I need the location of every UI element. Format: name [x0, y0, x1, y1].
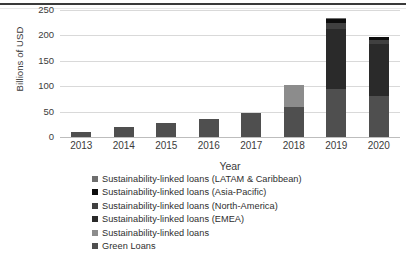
y-tick-250: 250 — [18, 5, 54, 15]
bar-segment[interactable] — [369, 96, 389, 137]
bar-segment[interactable] — [71, 132, 91, 137]
chart-page: Billions of USD 250200150100500 20132014… — [0, 0, 406, 259]
bar-group-2014[interactable] — [114, 127, 134, 137]
legend-item[interactable]: Sustainability-linked loans — [92, 226, 392, 240]
bar-segment[interactable] — [326, 89, 346, 137]
x-tick-2018: 2018 — [273, 140, 315, 151]
page-top-rule-faint — [0, 8, 406, 9]
y-tick-0: 0 — [18, 132, 54, 142]
bar-group-2016[interactable] — [199, 119, 219, 137]
legend-item[interactable]: Green Loans — [92, 240, 392, 254]
page-top-rule — [0, 3, 406, 5]
y-tick-200: 200 — [18, 30, 54, 40]
bar-group-2017[interactable] — [241, 113, 261, 137]
legend-item[interactable]: Sustainability-linked loans (LATAM & Car… — [92, 172, 392, 186]
bar-segment[interactable] — [369, 44, 389, 96]
bar-segment[interactable] — [326, 29, 346, 88]
y-tick-150: 150 — [18, 56, 54, 66]
axis-baseline — [60, 137, 400, 138]
bar-group-2013[interactable] — [71, 132, 91, 137]
bar-segment[interactable] — [156, 123, 176, 137]
legend-swatch-icon — [92, 176, 98, 182]
bar-segment[interactable] — [199, 119, 219, 137]
x-axis-title: Year — [60, 160, 400, 172]
x-tick-2013: 2013 — [60, 140, 102, 151]
bars-container — [60, 10, 400, 137]
bar-group-2019[interactable] — [326, 18, 346, 137]
plot-area: Billions of USD 250200150100500 20132014… — [0, 10, 406, 160]
bar-group-2020[interactable] — [369, 37, 389, 137]
legend-item-label: Green Loans — [102, 241, 156, 251]
bar-segment[interactable] — [284, 107, 304, 137]
bar-group-2018[interactable] — [284, 85, 304, 137]
legend-swatch-icon — [92, 230, 98, 236]
legend-item-label: Sustainability-linked loans (Asia-Pacifi… — [102, 187, 266, 197]
x-tick-2017: 2017 — [230, 140, 272, 151]
legend-item-label: Sustainability-linked loans — [102, 228, 209, 238]
x-tick-2015: 2015 — [145, 140, 187, 151]
y-tick-50: 50 — [18, 107, 54, 117]
x-tick-2020: 2020 — [358, 140, 400, 151]
legend-swatch-icon — [92, 189, 98, 195]
y-tick-100: 100 — [18, 81, 54, 91]
legend-item-label: Sustainability-linked loans (North-Ameri… — [102, 201, 278, 211]
bar-segment[interactable] — [114, 127, 134, 137]
legend-swatch-icon — [92, 243, 98, 249]
legend-item-label: Sustainability-linked loans (LATAM & Car… — [102, 174, 302, 184]
legend-item[interactable]: Sustainability-linked loans (North-Ameri… — [92, 199, 392, 213]
bar-segment[interactable] — [284, 85, 304, 106]
legend-swatch-icon — [92, 203, 98, 209]
x-tick-2019: 2019 — [315, 140, 357, 151]
legend-item-label: Sustainability-linked loans (EMEA) — [102, 214, 244, 224]
bar-segment[interactable] — [241, 113, 261, 137]
x-tick-2016: 2016 — [188, 140, 230, 151]
legend-item[interactable]: Sustainability-linked loans (Asia-Pacifi… — [92, 186, 392, 200]
legend-swatch-icon — [92, 216, 98, 222]
bar-group-2015[interactable] — [156, 123, 176, 137]
x-tick-2014: 2014 — [103, 140, 145, 151]
legend-item[interactable]: Sustainability-linked loans (EMEA) — [92, 213, 392, 227]
chart-legend: Sustainability-linked loans (LATAM & Car… — [92, 172, 392, 253]
